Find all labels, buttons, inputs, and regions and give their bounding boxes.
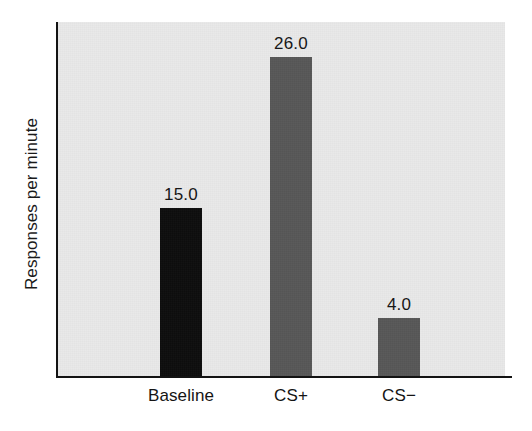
bar-chart-figure: Responses per minute 15.0 26.0 4.0 Basel… bbox=[0, 0, 532, 431]
y-axis-title: Responses per minute bbox=[22, 54, 42, 354]
x-tick-label-cs-plus: CS+ bbox=[231, 386, 351, 406]
y-axis-title-container: Responses per minute bbox=[0, 0, 56, 400]
bar-cs-minus bbox=[378, 318, 420, 376]
y-axis-line bbox=[56, 22, 58, 378]
bar-baseline bbox=[160, 208, 202, 376]
value-label-cs-plus: 26.0 bbox=[249, 34, 333, 54]
x-tick-label-cs-minus: CS− bbox=[339, 386, 459, 406]
bar-cs-plus bbox=[270, 57, 312, 376]
x-tick-label-baseline: Baseline bbox=[121, 386, 241, 406]
value-label-baseline: 15.0 bbox=[139, 185, 223, 205]
plot-area: 15.0 26.0 4.0 bbox=[58, 22, 505, 376]
value-label-cs-minus: 4.0 bbox=[357, 295, 441, 315]
x-axis-line bbox=[56, 376, 512, 378]
